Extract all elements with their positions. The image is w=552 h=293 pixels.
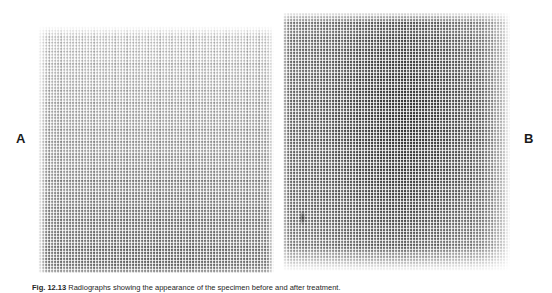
radiograph-panel-b — [283, 13, 510, 271]
figure-plate: A B Fig. 12.13 Radiographs showing the a… — [0, 0, 552, 293]
figure-caption-text: Fig. 12.13 Radiographs showing the appea… — [32, 283, 532, 292]
panel-a-tone — [38, 26, 274, 273]
figure-caption-body: Radiographs showing the appearance of th… — [68, 283, 340, 292]
panel-label-b: B — [524, 132, 534, 145]
radiograph-panel-a — [38, 26, 274, 273]
figure-caption-label: Fig. 12.13 — [32, 283, 66, 292]
figure-caption: Fig. 12.13 Radiographs showing the appea… — [32, 283, 532, 293]
panel-b-tone — [283, 13, 510, 271]
panel-label-a: A — [16, 132, 26, 145]
